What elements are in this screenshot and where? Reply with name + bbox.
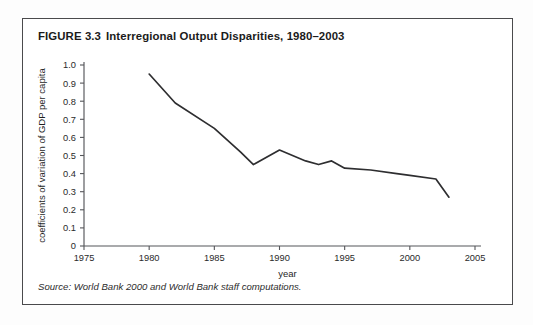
y-tick-label: 0.1: [63, 223, 76, 233]
figure-box: FIGURE 3.3Interregional Output Dispariti…: [22, 18, 513, 305]
y-axis-ticks: 00.10.20.30.40.50.60.70.80.91.0: [63, 60, 84, 251]
x-tick-label: 1995: [334, 253, 355, 263]
x-axis-title: year: [278, 268, 296, 279]
x-tick-label: 1985: [204, 253, 225, 263]
x-tick-label: 1980: [139, 253, 160, 263]
chart-axes: [84, 62, 481, 246]
x-tick-label: 1990: [269, 253, 290, 263]
y-tick-label: 0.2: [63, 205, 76, 215]
source-note: Source: World Bank 2000 and World Bank s…: [38, 281, 301, 292]
x-tick-label: 2005: [465, 253, 486, 263]
y-tick-label: 1.0: [63, 60, 76, 70]
x-tick-label: 2000: [399, 253, 420, 263]
y-tick-label: 0: [71, 241, 76, 251]
y-axis-title: coefficients of variation of GDP per cap…: [36, 68, 47, 243]
y-tick-label: 0.3: [63, 187, 76, 197]
data-line-gdp-variation: [149, 74, 449, 197]
x-axis-ticks: 1975198019851990199520002005: [74, 246, 486, 263]
y-tick-label: 0.7: [63, 115, 76, 125]
y-tick-label: 0.8: [63, 97, 76, 107]
y-tick-label: 0.6: [63, 133, 76, 143]
line-chart: 00.10.20.30.40.50.60.70.80.91.0 19751980…: [23, 19, 514, 306]
chart-plot-area: 00.10.20.30.40.50.60.70.80.91.0 19751980…: [23, 19, 514, 306]
y-tick-label: 0.9: [63, 79, 76, 89]
y-tick-label: 0.4: [63, 169, 76, 179]
x-tick-label: 1975: [74, 253, 95, 263]
data-series-group: [149, 74, 449, 197]
y-tick-label: 0.5: [63, 151, 76, 161]
